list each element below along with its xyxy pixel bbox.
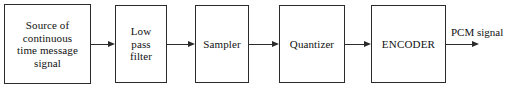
arrow-icon-quantizer-to-encoder bbox=[364, 41, 371, 47]
block-quantizer-label: Quantizer bbox=[288, 38, 336, 51]
arrow-icon-filter-to-sampler bbox=[188, 41, 195, 47]
block-source-label: Source of continuous time message signal bbox=[15, 19, 80, 69]
block-quantizer: Quantizer bbox=[279, 5, 345, 83]
block-low-pass-filter-label: Low pass filter bbox=[128, 25, 154, 63]
arrow-icon-sampler-to-quantizer bbox=[272, 41, 279, 47]
arrow-icon-source-to-filter bbox=[108, 41, 115, 47]
pcm-block-diagram: Source of continuous time message signal… bbox=[0, 0, 518, 94]
connector-encoder-output-line bbox=[446, 44, 472, 45]
connector-sampler-to-quantizer-line bbox=[249, 44, 272, 45]
block-encoder: ENCODER bbox=[371, 5, 446, 83]
block-source: Source of continuous time message signal bbox=[4, 4, 91, 84]
arrow-icon-encoder-output bbox=[472, 41, 479, 47]
connector-quantizer-to-encoder-line bbox=[345, 44, 364, 45]
block-sampler: Sampler bbox=[195, 5, 249, 83]
output-label-pcm-signal: PCM signal bbox=[451, 26, 503, 38]
connector-source-to-filter-line bbox=[91, 44, 108, 45]
block-encoder-label: ENCODER bbox=[380, 38, 437, 51]
connector-filter-to-sampler-line bbox=[167, 44, 188, 45]
block-sampler-label: Sampler bbox=[201, 38, 242, 51]
block-low-pass-filter: Low pass filter bbox=[115, 5, 167, 83]
